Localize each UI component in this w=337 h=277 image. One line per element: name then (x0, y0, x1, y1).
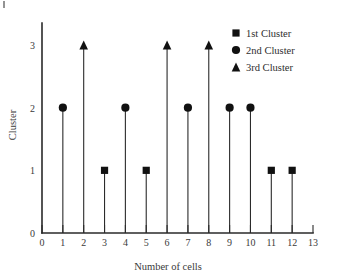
y-axis-title: Cluster (7, 109, 18, 140)
legend-label-1: 1st Cluster (246, 28, 292, 39)
data-point-triangle-x6-y3 (163, 41, 172, 50)
x-tick-label-4: 4 (123, 237, 128, 248)
legend-marker-circle (232, 46, 240, 54)
x-tick-label-1: 1 (60, 237, 65, 248)
stems-group (63, 45, 292, 233)
data-point-circle-x9-y2 (226, 104, 234, 112)
x-tick-label-5: 5 (144, 237, 149, 248)
x-tick-label-3: 3 (102, 237, 107, 248)
legend-marker-triangle (232, 63, 241, 72)
y-tick-label-2: 2 (30, 103, 35, 114)
y-tick-label-3: 3 (30, 40, 35, 51)
y-tick-label-1: 1 (30, 165, 35, 176)
y-axis-ticks: 0123 (30, 40, 35, 239)
data-point-circle-x7-y2 (184, 104, 192, 112)
x-tick-label-13: 13 (308, 237, 318, 248)
data-point-triangle-x2-y3 (79, 41, 88, 50)
data-point-circle-x10-y2 (246, 104, 254, 112)
data-point-square-x5-y1 (143, 167, 150, 174)
x-tick-label-8: 8 (206, 237, 211, 248)
x-tick-label-12: 12 (287, 237, 297, 248)
data-point-circle-x1-y2 (59, 104, 67, 112)
markers-group (59, 41, 296, 174)
x-tick-label-10: 10 (245, 237, 255, 248)
x-axis-title: Number of cells (134, 261, 202, 272)
legend-label-3: 3rd Cluster (246, 62, 293, 73)
x-tick-label-7: 7 (185, 237, 190, 248)
stem-chart-figure: 012345678910111213 0123 1st Cluster2nd C… (0, 0, 337, 277)
data-point-circle-x4-y2 (121, 104, 129, 112)
x-tick-label-0: 0 (40, 237, 45, 248)
y-tick-label-0: 0 (30, 228, 35, 239)
data-point-square-x11-y1 (268, 167, 275, 174)
x-tick-label-11: 11 (266, 237, 276, 248)
data-point-square-x3-y1 (101, 167, 108, 174)
legend: 1st Cluster2nd Cluster3rd Cluster (232, 28, 296, 73)
legend-marker-square (232, 29, 239, 36)
x-axis-ticks: 012345678910111213 (40, 225, 319, 248)
x-tick-label-9: 9 (227, 237, 232, 248)
legend-label-2: 2nd Cluster (246, 45, 295, 56)
x-tick-label-6: 6 (165, 237, 170, 248)
data-point-triangle-x8-y3 (204, 41, 213, 50)
chart-plot-area: 012345678910111213 0123 1st Cluster2nd C… (0, 0, 337, 277)
data-point-square-x12-y1 (289, 167, 296, 174)
x-tick-label-2: 2 (81, 237, 86, 248)
